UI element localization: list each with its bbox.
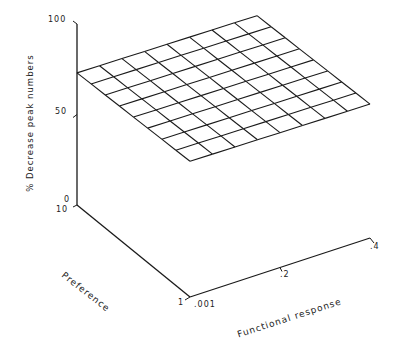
surface-grid-line — [348, 104, 371, 111]
z-tick-100: 100 — [48, 15, 66, 24]
surface-grid-line — [170, 121, 184, 132]
surface-grid-line — [195, 66, 209, 77]
surface-grid-line — [252, 103, 275, 110]
surface-grid-line — [184, 125, 207, 132]
surface-grid-line — [285, 38, 299, 49]
surface-grid-line — [213, 147, 236, 154]
surface-grid-line — [311, 107, 325, 118]
surface-grid-line — [201, 88, 224, 95]
surface-grid-line — [195, 59, 218, 66]
surface-grid-line — [303, 118, 326, 125]
surface-grid-line — [179, 103, 193, 114]
surface-grid-line — [263, 45, 277, 56]
surface-grid-line — [291, 60, 314, 67]
z-tick-0: 0 — [64, 195, 70, 204]
surface-grid-line — [243, 129, 257, 140]
surface-grid-line — [254, 63, 268, 74]
x-tick-4: .4 — [370, 242, 380, 251]
z-tick-0-mark — [73, 205, 77, 207]
surface-grid-line — [238, 100, 252, 111]
surface-grid-line — [204, 41, 227, 48]
surface-grid-line — [212, 23, 235, 30]
surface-grid-line — [356, 93, 370, 104]
surface-grid-line — [246, 81, 260, 92]
surface-grid-line — [173, 74, 187, 85]
surface-grid-line — [187, 85, 201, 96]
surface-grid-line — [204, 48, 218, 59]
surface-grid-line — [150, 74, 173, 81]
y-tick-1: 1 — [178, 298, 184, 307]
surface-grid-line — [235, 23, 249, 34]
surface-grid-line — [288, 107, 311, 114]
surface-grid-line — [297, 89, 320, 96]
surface-grid-line — [148, 128, 162, 139]
surface-grid-line — [198, 136, 221, 143]
x-tick-001: .001 — [194, 300, 216, 309]
surface-grid-line — [232, 70, 246, 81]
surface-grid-line — [218, 59, 232, 70]
surface-grid-line — [193, 114, 207, 125]
surface-grid-line — [128, 81, 151, 88]
surface-grid-line — [198, 143, 212, 154]
surface-grid-line — [319, 82, 342, 89]
surface-grid-line — [77, 73, 91, 84]
surface-grid-line — [119, 99, 142, 106]
surface-grid-line — [170, 114, 193, 121]
surface-grid-line — [235, 16, 258, 23]
surface-grid-line — [266, 122, 280, 133]
z-tick-50: 50 — [55, 107, 67, 116]
surface-grid-line — [134, 117, 148, 128]
surface-grid-line — [333, 100, 347, 111]
surface-grid-line — [328, 71, 342, 82]
surface-grid-line — [254, 56, 277, 63]
surface-grid-line — [221, 129, 244, 136]
surface-grid-line — [145, 44, 168, 51]
surface-grid-line — [156, 103, 179, 110]
surface-grid-line — [252, 111, 266, 122]
surface-grid-line — [187, 77, 210, 84]
surface-grid-line — [207, 125, 221, 136]
surface-grid-line — [207, 118, 230, 125]
surface-grid-line — [215, 107, 229, 118]
surface-grid-line — [269, 74, 283, 85]
surface-grid-line — [190, 37, 204, 48]
surface-grid-line — [136, 70, 150, 81]
x-tick-2: .2 — [280, 270, 290, 279]
surface-grid-line — [246, 74, 269, 81]
preference-axis — [77, 205, 190, 297]
surface-grid-line — [162, 132, 185, 139]
surface-grid-line — [274, 103, 288, 114]
surface-grid-line — [142, 99, 156, 110]
z-tick-100-mark — [73, 21, 77, 24]
surface-grid-line — [243, 122, 266, 129]
surface-grid-line — [77, 66, 100, 73]
y-tick-1-mark — [185, 297, 190, 300]
surface-grid-line — [271, 27, 285, 38]
surface-grid-line — [224, 81, 247, 88]
surface-grid-line — [190, 30, 213, 37]
surface-grid-line — [209, 77, 223, 88]
surface-grid-line — [181, 55, 195, 66]
surface-grid-line — [277, 49, 300, 56]
surface-grid-line — [91, 77, 114, 84]
surface-grid-line — [201, 96, 215, 107]
surface-grid-line — [240, 45, 263, 52]
surface-grid-line — [266, 114, 289, 121]
surface-grid-line — [134, 110, 157, 117]
surface-grid-line — [148, 121, 171, 128]
surface-grid-line — [159, 55, 182, 62]
surface-grid-line — [260, 92, 274, 103]
y-tick-10: 10 — [56, 205, 68, 214]
surface-grid-line — [215, 100, 238, 107]
surface-grid-line — [257, 16, 271, 27]
surface-grid-line — [221, 136, 235, 147]
surface-grid-line — [240, 52, 254, 63]
surface-grid-line — [105, 95, 119, 106]
surface-grid-line — [162, 139, 176, 150]
surface-grid-line — [274, 96, 297, 103]
surface-grid-line — [136, 62, 159, 69]
surface-grid-line — [176, 150, 190, 161]
surface-grid-line — [122, 51, 145, 58]
surface-grid-line — [190, 154, 213, 161]
surface-grid-line — [181, 48, 204, 55]
